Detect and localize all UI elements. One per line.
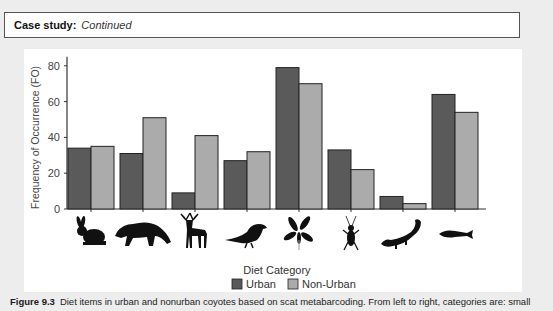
bar-urban (224, 161, 247, 209)
bar-non-urban (299, 84, 322, 209)
bar-non-urban (403, 204, 426, 209)
legend-label-non-urban: Non-Urban (302, 278, 356, 290)
bar-urban (328, 150, 351, 209)
bar-chart: 020406080Frequency of Occurrence (FO) Di… (24, 49, 522, 292)
insect-icon (343, 216, 359, 250)
y-tick-label: 40 (48, 131, 60, 143)
legend-label-urban: Urban (246, 278, 276, 290)
rabbit-icon (76, 216, 106, 245)
bar-urban (276, 68, 299, 209)
bar-urban (68, 148, 91, 209)
category-icons (76, 213, 473, 250)
legend: UrbanNon-Urban (232, 278, 356, 290)
legend-swatch-urban (232, 279, 242, 289)
y-tick-label: 60 (48, 96, 60, 108)
deer-icon (181, 213, 207, 248)
salamander-icon (381, 219, 421, 249)
legend-swatch-non-urban (288, 279, 298, 289)
y-tick-label: 80 (48, 60, 60, 72)
x-axis-label: Diet Category (243, 264, 311, 276)
raccoon-icon (115, 222, 171, 246)
case-study-label: Case study: (14, 19, 76, 31)
chart-panel: 020406080Frequency of Occurrence (FO) Di… (24, 49, 522, 292)
bird-icon (225, 224, 267, 248)
figure-number: Figure 9.3 (10, 296, 55, 307)
bar-urban (380, 196, 403, 209)
bar-urban (172, 193, 195, 209)
bar-non-urban (351, 170, 374, 209)
figure-caption: Figure 9.3Diet items in urban and nonurb… (10, 296, 530, 307)
bar-urban (432, 94, 455, 209)
caption-text: Diet items in urban and nonurban coyotes… (60, 296, 531, 307)
case-study-header: Case study: Continued (4, 12, 520, 38)
bar-non-urban (143, 118, 166, 209)
y-axis-label: Frequency of Occurrence (FO) (29, 66, 41, 209)
fish-icon (439, 230, 473, 239)
bar-non-urban (455, 112, 478, 209)
bar-urban (120, 154, 143, 209)
plant-icon (282, 215, 314, 250)
bar-non-urban (247, 152, 270, 209)
bar-non-urban (195, 136, 218, 209)
case-study-subtitle: Continued (81, 19, 131, 31)
y-tick-label: 0 (54, 203, 60, 215)
bar-non-urban (91, 146, 114, 209)
y-tick-label: 20 (48, 167, 60, 179)
